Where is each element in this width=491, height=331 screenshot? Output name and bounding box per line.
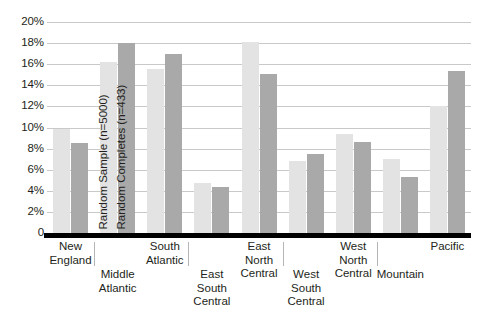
bar-random-sample <box>430 106 447 233</box>
bar-random-completes <box>165 54 182 233</box>
y-axis-tick-label: 18% <box>0 37 44 49</box>
x-axis-labels: New EnglandMiddle AtlanticSouth Atlantic… <box>0 238 491 331</box>
y-axis-tick-label: 20% <box>0 16 44 28</box>
y-axis-tick-label: 0 <box>0 227 44 239</box>
bar-random-sample <box>242 42 259 233</box>
y-axis-tick-label: 8% <box>0 143 44 155</box>
y-axis-tick-label: 10% <box>0 122 44 134</box>
bar-random-completes <box>401 177 418 233</box>
bar-random-sample <box>53 129 70 233</box>
y-axis-tick-label: 12% <box>0 100 44 112</box>
x-axis-tick-separator <box>377 242 378 266</box>
bars-layer: Random Sample (n=5000)Random Completes (… <box>47 0 471 233</box>
x-axis-tick-label: Mountain <box>362 268 438 282</box>
x-axis-tick-separator <box>188 242 189 266</box>
x-axis-tick-separator <box>283 242 284 266</box>
y-axis-labels: 20%18%16%14%12%10%8%6%4%2%0 <box>0 0 44 247</box>
x-axis-tick-label: New England <box>33 240 109 267</box>
y-axis-tick-label: 14% <box>0 79 44 91</box>
bar-random-completes <box>260 74 277 233</box>
x-axis-tick-label: South Atlantic <box>127 240 203 267</box>
bar-random-completes: Random Completes (n=433) <box>118 43 135 233</box>
bar-chart: 20%18%16%14%12%10%8%6%4%2%0 Random Sampl… <box>0 0 491 331</box>
bar-random-completes <box>212 187 229 233</box>
bar-random-sample <box>194 183 211 233</box>
x-axis-tick-label: Middle Atlantic <box>80 268 156 295</box>
x-axis-tick-label: Pacific <box>409 240 485 254</box>
y-axis-tick-label: 2% <box>0 206 44 218</box>
bar-random-sample <box>289 161 306 233</box>
bar-random-sample <box>336 134 353 233</box>
bar-random-completes <box>354 142 371 233</box>
legend-label: Random Sample (n=5000) <box>98 94 110 229</box>
legend-label: Random Completes (n=433) <box>116 84 128 229</box>
y-axis-tick-label: 4% <box>0 185 44 197</box>
bar-random-completes <box>307 154 324 233</box>
bar-random-sample <box>147 69 164 233</box>
y-axis-tick-label: 16% <box>0 58 44 70</box>
bar-random-completes <box>71 143 88 233</box>
y-axis-tick-label: 6% <box>0 164 44 176</box>
bar-random-completes <box>448 71 465 233</box>
bar-random-sample <box>383 159 400 233</box>
x-axis-tick-separator <box>94 242 95 266</box>
